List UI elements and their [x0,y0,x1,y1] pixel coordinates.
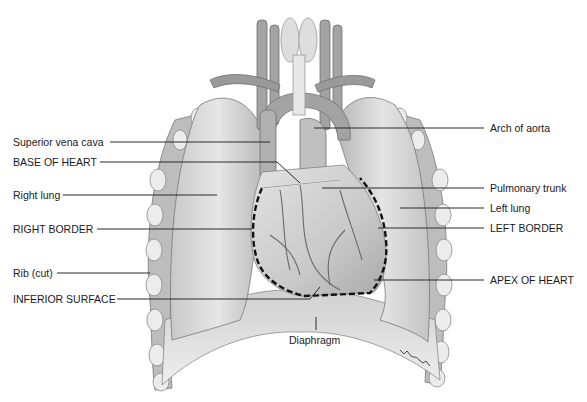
label-pulmonary-trunk: Pulmonary trunk [490,182,566,194]
label-left-lung: Left lung [490,202,530,214]
label-superior-vena-cava: Superior vena cava [13,136,103,148]
label-base-of-heart: BASE OF HEART [13,156,97,168]
label-arch-of-aorta: Arch of aorta [490,122,550,134]
label-apex-of-heart: APEX OF HEART [490,274,574,286]
label-right-lung: Right lung [13,189,60,201]
label-diaphragm: Diaphragm [289,334,340,346]
label-inferior-surface: INFERIOR SURFACE [13,293,116,305]
label-right-border: RIGHT BORDER [13,223,93,235]
label-left-border: LEFT BORDER [490,222,563,234]
label-rib-cut: Rib (cut) [13,267,53,279]
